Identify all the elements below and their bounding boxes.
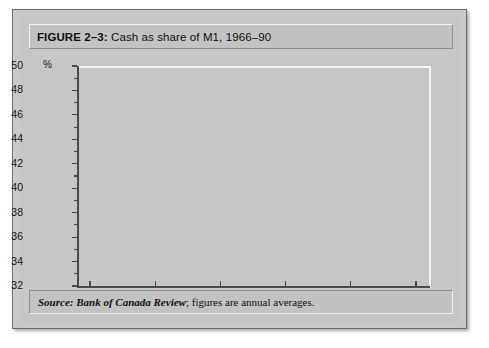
x-tick-1970 [155,281,156,287]
y-minor-tick-33 [74,273,78,274]
x-tick-1980 [285,281,286,287]
y-tick-label-34: 34 [11,255,23,267]
y-tick-label-40: 40 [11,181,23,193]
y-minor-tick-37 [74,224,78,225]
figure-panel: FIGURE 2–3: Cash as share of M1, 1966–90… [12,9,467,329]
source-rest: ; figures are annual averages. [186,296,315,308]
x-tick-1985 [350,281,351,287]
source-prefix: Source: [38,296,73,308]
y-tick-42 [72,163,77,164]
source-publication: Bank of Canada Review [73,296,185,308]
y-axis-line [77,66,79,287]
y-tick-32 [72,285,77,286]
y-tick-36 [72,237,77,238]
y-tick-label-38: 38 [11,206,23,218]
y-axis-unit-label: % [43,59,52,70]
y-tick-label-44: 44 [11,132,23,144]
y-minor-tick-47 [74,102,78,103]
y-tick-50 [72,65,77,66]
y-tick-44 [72,139,77,140]
y-minor-tick-39 [74,200,78,201]
y-tick-label-48: 48 [11,83,23,95]
y-tick-40 [72,188,77,189]
y-tick-46 [72,114,77,115]
source-note: Source: Bank of Canada Review; figures a… [38,296,314,308]
figure-panel-inner: FIGURE 2–3: Cash as share of M1, 1966–90… [19,16,460,322]
y-tick-label-42: 42 [11,157,23,169]
x-tick-1990 [415,281,416,287]
plot-area [77,66,431,288]
figure-title-text: Cash as share of M1, 1966–90 [108,31,271,43]
y-tick-label-46: 46 [11,108,23,120]
x-axis-line [77,286,430,288]
figure-source-bar: Source: Bank of Canada Review; figures a… [29,290,453,314]
page-root: FIGURE 2–3: Cash as share of M1, 1966–90… [0,0,489,348]
y-minor-tick-41 [74,175,78,176]
y-tick-38 [72,212,77,213]
figure-number-label: FIGURE 2–3: [37,31,108,43]
y-tick-label-32: 32 [11,279,23,291]
y-minor-tick-45 [74,127,78,128]
x-tick-1975 [220,281,221,287]
y-minor-tick-49 [74,78,78,79]
x-tick-1965 [89,281,90,287]
y-tick-48 [72,90,77,91]
y-minor-tick-35 [74,249,78,250]
y-tick-label-50: 50 [11,59,23,71]
figure-title-bar: FIGURE 2–3: Cash as share of M1, 1966–90 [29,24,453,49]
chart-frame: % 32343638404244464850196519701975198019… [29,56,475,302]
y-tick-34 [72,261,77,262]
y-tick-label-36: 36 [11,230,23,242]
page-title: FIGURE 2–3: Cash as share of M1, 1966–90 [37,31,271,43]
y-minor-tick-43 [74,151,78,152]
